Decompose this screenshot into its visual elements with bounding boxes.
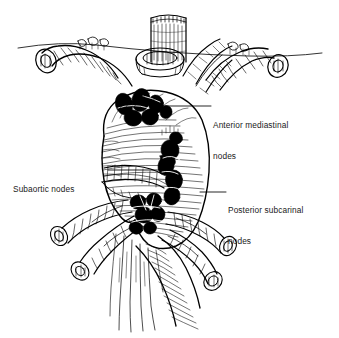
label-posterior-subcarinal-nodes: Posterior subcarinal nodes xyxy=(228,185,303,267)
esophagus xyxy=(110,234,163,332)
label-posterior-subcarinal-nodes-line2: nodes xyxy=(228,236,303,246)
label-subaortic-nodes: Subaortic nodes xyxy=(13,164,74,215)
great-vessels xyxy=(183,39,232,94)
label-subaortic-nodes-line1: Subaortic nodes xyxy=(13,184,74,194)
label-anterior-mediastinal-nodes-line1: Anterior mediastinal xyxy=(213,120,288,130)
trachea xyxy=(151,15,186,62)
label-anterior-mediastinal-nodes: Anterior mediastinal nodes xyxy=(213,100,288,182)
left-brachiocephalic-vein xyxy=(32,46,132,87)
lymph-node-cluster xyxy=(157,130,184,206)
anatomy-figure: Anterior mediastinal nodes Subaortic nod… xyxy=(0,0,339,338)
label-posterior-subcarinal-nodes-line1: Posterior subcarinal xyxy=(228,205,303,215)
descending-aorta xyxy=(136,236,200,329)
label-anterior-mediastinal-nodes-line2: nodes xyxy=(213,151,288,161)
lymph-node-cluster xyxy=(113,87,174,128)
